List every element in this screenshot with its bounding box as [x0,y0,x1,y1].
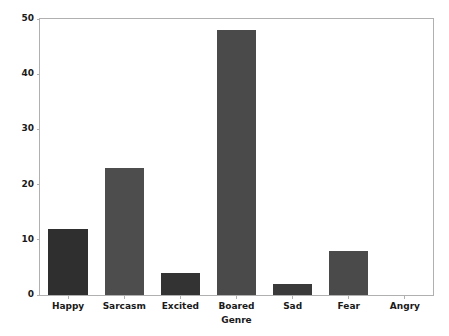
bars-group [40,19,433,295]
x-tick-mark [180,295,181,299]
bar-boared [217,30,256,295]
bar-chart-figure: 01020304050 HappySarcasmExcitedBoaredSad… [0,0,449,336]
y-tick-label: 30 [21,123,34,134]
y-tick-label: 20 [21,179,34,190]
x-axis-label: Genre [39,315,434,326]
x-tick-label: Angry [365,301,445,312]
y-tick-label: 10 [21,234,34,245]
bar-sarcasm [105,168,144,295]
bar-sad [273,284,312,295]
y-tick-label: 50 [21,13,34,24]
y-tick-label: 40 [21,68,34,79]
x-tick-mark [68,295,69,299]
bar-fear [329,251,368,295]
x-tick-mark [348,295,349,299]
x-tick-mark [124,295,125,299]
plot-area: 01020304050 HappySarcasmExcitedBoaredSad… [39,18,434,296]
x-tick-mark [236,295,237,299]
bar-excited [161,273,200,295]
y-tick-label: 0 [28,289,34,300]
x-tick-mark [404,295,405,299]
x-tick-mark [292,295,293,299]
bar-happy [48,229,87,295]
